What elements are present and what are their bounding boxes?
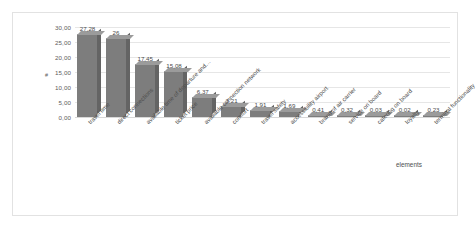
y-axis-tick-label: 10,00 [55, 84, 71, 91]
y-axis-tick-label: 0,00 [59, 114, 71, 121]
y-axis-tick-label: 25,00 [55, 39, 71, 46]
bar[interactable]: 27,28 [77, 34, 97, 117]
bar-value-label: 6,37 [197, 88, 209, 95]
bar-value-label: 17,45 [137, 55, 152, 62]
bar-value-label: 0,32 [341, 106, 353, 113]
bar-slot[interactable]: 27,28 [75, 27, 104, 117]
bar-value-label: 0,41 [312, 106, 324, 113]
bar-value-label: 15,08 [166, 62, 181, 69]
bar-side-face [126, 33, 130, 114]
y-axis-tick-label: 30,00 [55, 24, 71, 31]
bar-top-face [106, 35, 134, 39]
y-axis-tick-label: 20,00 [55, 54, 71, 61]
y-axis-tick-label: 5,00 [59, 99, 71, 106]
x-axis-title: elements [396, 161, 422, 168]
bar-side-face [155, 59, 159, 114]
bar-value-label: 0,23 [428, 106, 440, 113]
bar-value-label: 0,02 [399, 106, 411, 113]
y-axis-title: # [45, 72, 48, 78]
bar-value-label: 27,28 [80, 25, 95, 32]
bar-value-label: 26 [113, 29, 120, 36]
bar-value-label: 0,03 [370, 106, 382, 113]
chart-container: # 0,005,0010,0015,0020,0025,0030,00 27,2… [12, 12, 458, 216]
bar-value-label: 1,91 [254, 101, 266, 108]
bar-side-face [97, 29, 101, 114]
y-axis-tick-label: 15,00 [55, 69, 71, 76]
bar-slot[interactable]: 0,23 [421, 27, 450, 117]
